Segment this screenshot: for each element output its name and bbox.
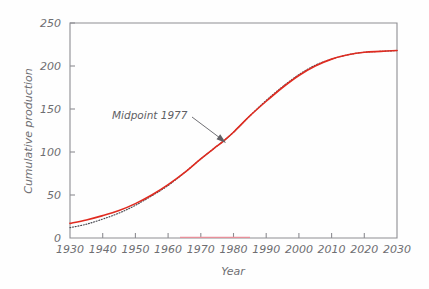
- series-dotted-data: [70, 51, 397, 228]
- series-group: [70, 51, 397, 228]
- y-axis-tick-labels: 050100150200250: [40, 17, 61, 245]
- x-tick-label: 1990: [252, 243, 280, 256]
- x-tick-label: 1940: [89, 243, 117, 256]
- x-tick-label: 2000: [285, 243, 313, 256]
- annotation-midpoint: Midpoint 1977: [112, 109, 226, 143]
- annotation-midpoint-label: Midpoint 1977: [112, 109, 188, 121]
- chart-figure: 050100150200250 193019401950196019701980…: [0, 0, 429, 289]
- y-axis-ticks: [70, 23, 75, 195]
- x-tick-label: 2030: [383, 243, 411, 256]
- series-solid-fit: [70, 51, 397, 224]
- x-tick-label: 1970: [187, 243, 215, 256]
- y-tick-label: 200: [40, 60, 61, 73]
- x-tick-label: 2010: [318, 243, 346, 256]
- x-tick-label: 1960: [154, 243, 182, 256]
- y-tick-label: 100: [40, 146, 61, 159]
- y-tick-label: 50: [47, 189, 61, 202]
- annotation-arrow-head: [217, 134, 227, 143]
- x-tick-label: 1950: [121, 243, 149, 256]
- cumulative-production-chart: 050100150200250 193019401950196019701980…: [0, 0, 429, 289]
- y-axis-title: Cumulative production: [22, 68, 35, 194]
- x-tick-label: 1980: [220, 243, 248, 256]
- y-tick-label: 250: [40, 17, 61, 30]
- x-tick-label: 2020: [350, 243, 378, 256]
- x-tick-label: 1930: [56, 243, 84, 256]
- x-axis-title: Year: [221, 265, 246, 278]
- x-axis-tick-labels: 1930194019501960197019801990200020102020…: [56, 243, 411, 256]
- y-tick-label: 150: [40, 103, 61, 116]
